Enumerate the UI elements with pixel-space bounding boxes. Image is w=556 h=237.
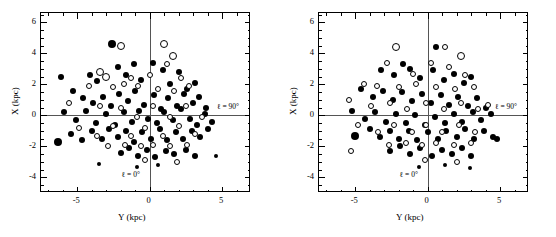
data-point-filled <box>197 134 203 140</box>
axis-tick <box>526 15 527 16</box>
axis-tick <box>41 46 44 47</box>
data-point-filled <box>419 91 425 97</box>
axis-tick <box>526 92 527 93</box>
data-point-filled <box>161 109 167 115</box>
axis-tick <box>164 190 165 191</box>
axis-tick <box>319 131 322 132</box>
data-point-open <box>66 100 72 106</box>
data-point-open <box>121 81 127 87</box>
axis-tick <box>384 190 385 191</box>
axis-tick <box>319 77 322 78</box>
axis-tick <box>248 61 249 62</box>
data-point-filled <box>429 153 435 159</box>
data-point-filled <box>108 103 114 109</box>
axis-tick <box>248 46 249 47</box>
data-point-filled <box>409 98 415 104</box>
axis-tick <box>526 30 527 31</box>
axis-tick <box>41 177 47 178</box>
x-tick-label: -5 <box>61 195 91 205</box>
data-point-filled <box>403 120 409 126</box>
data-point-filled <box>144 147 150 153</box>
data-point-filled <box>116 91 122 97</box>
axis-tick <box>526 61 527 62</box>
axis-tick <box>121 190 122 191</box>
axis-tick <box>523 22 527 23</box>
axis-tick <box>77 187 78 191</box>
axis-tick <box>319 170 322 171</box>
data-point-filled <box>167 81 173 87</box>
axis-tick <box>319 61 322 62</box>
data-point-filled <box>150 60 156 66</box>
data-point-filled <box>192 153 198 159</box>
axis-tick <box>150 13 151 19</box>
data-point-open <box>147 72 153 78</box>
axis-tick <box>248 92 249 93</box>
axis-tick <box>526 100 527 101</box>
data-point-filled <box>80 95 86 101</box>
data-point-open <box>452 86 458 92</box>
axis-tick <box>41 115 47 116</box>
data-point-open <box>118 105 124 111</box>
y-tick-label: 2 <box>16 78 36 88</box>
vertical-reference-line <box>150 13 151 191</box>
data-point-filled <box>209 119 215 125</box>
axis-tick <box>319 46 322 47</box>
axis-tick <box>319 69 322 70</box>
axis-tick <box>486 13 487 16</box>
data-point-open <box>176 123 182 129</box>
data-point-filled <box>412 112 418 118</box>
y-tick-label: 0 <box>16 109 36 119</box>
axis-tick <box>248 139 249 140</box>
data-point-filled <box>433 44 439 50</box>
axis-tick <box>341 190 342 191</box>
axis-tick <box>193 190 194 191</box>
axis-tick <box>526 46 527 47</box>
data-point-filled <box>138 77 144 83</box>
l-90-label: ℓ = 90° <box>217 102 239 111</box>
data-point-filled <box>83 108 89 114</box>
axis-tick <box>523 146 527 147</box>
axis-tick <box>526 162 527 163</box>
right-panel: Y (kpc) X (kpc) -505-4-20246ℓ = 90°ℓ = 0… <box>278 0 556 237</box>
axis-tick <box>41 53 47 54</box>
axis-tick <box>319 15 322 16</box>
y-tick-label: 4 <box>294 47 314 57</box>
axis-tick <box>41 154 44 155</box>
axis-tick <box>526 170 527 171</box>
axis-tick <box>41 77 44 78</box>
data-point-open <box>169 52 177 60</box>
axis-tick <box>319 92 322 93</box>
data-point-open <box>413 81 419 87</box>
data-point-open <box>384 60 390 66</box>
axis-tick <box>164 13 165 16</box>
data-point-filled <box>145 116 151 122</box>
data-point-filled <box>108 40 116 48</box>
data-point-filled <box>377 134 383 140</box>
data-point-open <box>348 148 354 154</box>
axis-tick <box>135 190 136 191</box>
axis-tick <box>523 84 527 85</box>
data-point-filled <box>417 165 421 169</box>
data-point-filled <box>79 137 85 143</box>
data-point-open <box>186 83 192 89</box>
data-point-open <box>199 114 205 120</box>
data-point-filled <box>131 139 137 145</box>
axis-tick <box>319 123 322 124</box>
axis-tick <box>248 100 249 101</box>
axis-tick <box>248 30 249 31</box>
axis-tick <box>179 190 180 191</box>
axis-tick <box>237 190 238 191</box>
data-point-open <box>164 61 170 67</box>
axis-tick <box>248 77 249 78</box>
data-point-filled <box>152 154 158 160</box>
data-point-open <box>134 114 140 120</box>
data-point-filled <box>442 120 448 126</box>
data-point-open <box>346 97 352 103</box>
axis-tick <box>526 123 527 124</box>
axis-tick <box>526 131 527 132</box>
y-tick-label: -2 <box>294 140 314 150</box>
data-point-filled <box>459 145 465 151</box>
axis-tick <box>41 100 44 101</box>
data-point-filled <box>439 147 445 153</box>
axis-tick <box>319 162 322 163</box>
